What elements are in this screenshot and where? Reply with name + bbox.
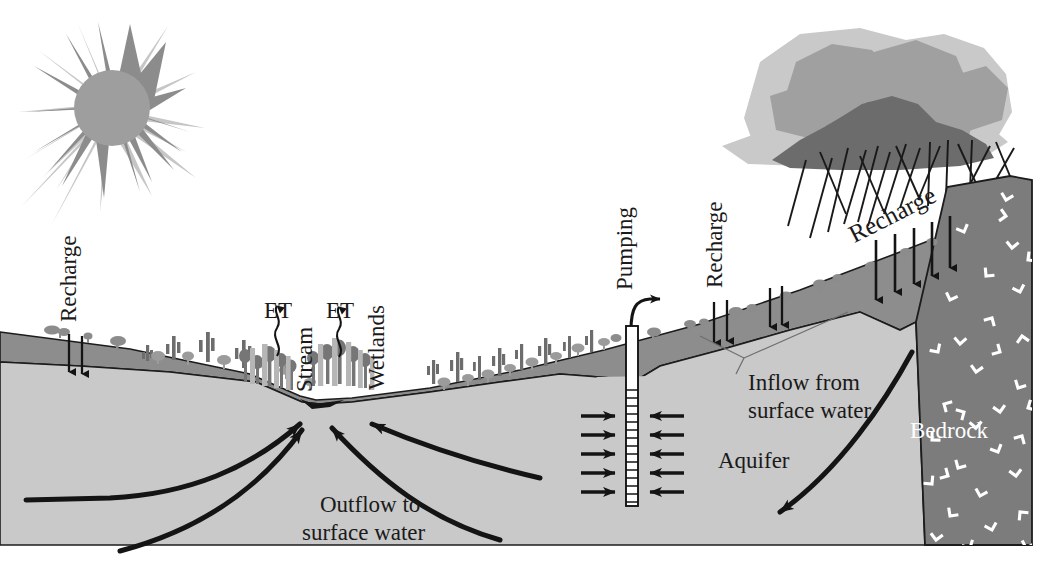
label-inflow-line2: surface water: [748, 398, 872, 423]
label-outflow-line2: surface water: [302, 520, 426, 545]
figure-canvas: Recharge ET Stream ET Wetlands Pumping R…: [0, 0, 1040, 561]
label-recharge-middle: Recharge: [702, 202, 727, 288]
label-aquifer: Aquifer: [718, 448, 790, 473]
label-stream: Stream: [292, 327, 317, 392]
label-pumping: Pumping: [612, 206, 637, 290]
label-wetlands: Wetlands: [364, 305, 389, 390]
label-outflow-line1: Outflow to: [320, 492, 420, 517]
cross-section-svg: Recharge ET Stream ET Wetlands Pumping R…: [0, 0, 1040, 561]
label-inflow-line1: Inflow from: [748, 370, 860, 395]
well-casing: [626, 326, 638, 506]
label-recharge-left: Recharge: [56, 236, 81, 322]
sun-core: [74, 70, 150, 146]
label-et-right: ET: [326, 298, 354, 323]
label-et-left: ET: [264, 298, 292, 323]
label-bedrock: Bedrock: [910, 418, 988, 443]
